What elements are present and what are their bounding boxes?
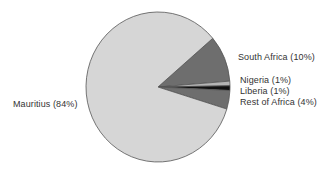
label-south-africa: South Africa (10%): [238, 52, 315, 62]
label-rest-of-africa: Rest of Africa (4%): [240, 97, 317, 107]
label-mauritius: Mauritius (84%): [13, 99, 78, 109]
label-liberia: Liberia (1%): [240, 86, 290, 96]
pie-chart: South Africa (10%) Nigeria (1%) Liberia …: [0, 0, 328, 174]
label-nigeria: Nigeria (1%): [240, 75, 291, 85]
